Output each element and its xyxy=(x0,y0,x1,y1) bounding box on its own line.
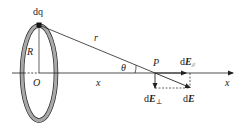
dq-label: dq xyxy=(33,6,43,17)
x-distance-label: x xyxy=(95,77,101,88)
theta-label: θ xyxy=(121,62,126,73)
P-label: P xyxy=(152,57,159,68)
origin-label: O xyxy=(33,77,40,88)
dE-perpendicular-label: dE⊥ xyxy=(144,93,162,106)
dE-vector xyxy=(155,73,190,88)
theta-arc xyxy=(135,65,136,73)
x-axis-label: x xyxy=(224,77,230,88)
dE-parallel-label: dE// xyxy=(180,56,196,68)
ring-field-diagram: dq R O r x θ P x dE// dE⊥ dE xyxy=(0,0,243,130)
R-label: R xyxy=(26,46,33,57)
r-label: r xyxy=(94,32,98,43)
dE-label: dE xyxy=(183,93,195,104)
